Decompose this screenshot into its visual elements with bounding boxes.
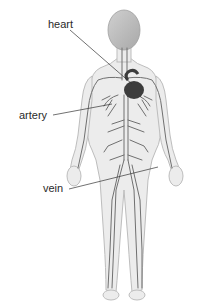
head bbox=[108, 10, 140, 50]
artery-label: artery bbox=[19, 110, 47, 121]
body-silhouette bbox=[67, 46, 183, 300]
heart-label: heart bbox=[48, 19, 73, 30]
vein-label: vein bbox=[43, 183, 63, 194]
circulatory-diagram bbox=[0, 0, 220, 307]
